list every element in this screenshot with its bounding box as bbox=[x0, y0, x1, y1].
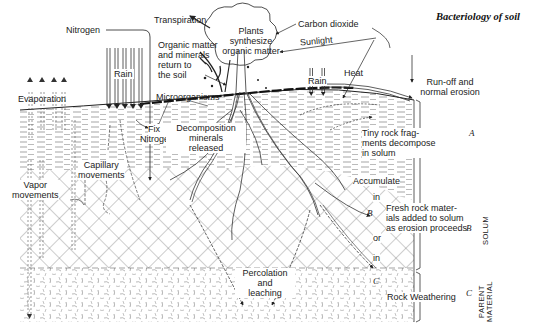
tiny-line-2: ments decompose bbox=[362, 138, 436, 148]
label-fresh-rock-materials: Fresh rock mater- ials added to solum as… bbox=[386, 203, 467, 233]
capillary-line-1: Capillary bbox=[78, 160, 125, 170]
plants-line-3: organic matter bbox=[218, 46, 284, 56]
parent-line-2: MATERIAL bbox=[486, 281, 494, 322]
organic-line-4: the soil bbox=[158, 70, 218, 80]
label-plants-synthesize: Plants synthesize organic matter bbox=[218, 26, 284, 56]
label-nitrogen-top: Nitrogen bbox=[66, 25, 100, 35]
fresh-line-1: Fresh rock mater- bbox=[386, 203, 467, 213]
horizon-c-inner: C bbox=[373, 276, 379, 286]
label-heat: Heat bbox=[344, 68, 363, 78]
soil-diagram: Bacteriology of soil Nitrogen Rain Evapo… bbox=[0, 0, 534, 326]
organic-line-3: return to bbox=[158, 60, 218, 70]
runoff-line-2: normal erosion bbox=[410, 87, 490, 97]
fresh-line-2: ials added to solum bbox=[386, 213, 467, 223]
label-decomposition: Decomposition minerals released bbox=[166, 123, 246, 153]
label-runoff: Run-off and normal erosion bbox=[410, 77, 490, 97]
label-transpiration: Transpiration bbox=[154, 15, 206, 25]
fresh-line-3: as erosion proceeds bbox=[386, 223, 467, 233]
vapor-line-2: movements bbox=[12, 190, 59, 200]
label-tiny-rock-fragments: Tiny rock frag- ments decompose in solum bbox=[362, 128, 436, 158]
decomp-line-3: released bbox=[166, 143, 246, 153]
plants-line-2: synthesize bbox=[218, 36, 284, 46]
percolation-line-1: Percolation bbox=[235, 268, 295, 278]
label-percolation-leaching: Percolation and leaching bbox=[235, 268, 295, 298]
label-evaporation: Evaporation bbox=[18, 94, 66, 104]
tiny-line-1: Tiny rock frag- bbox=[362, 128, 436, 138]
label-rain-right: Rain bbox=[308, 76, 327, 86]
label-microorganisms: Microorganisms bbox=[156, 92, 220, 102]
label-parent-material: PARENT MATERIAL bbox=[478, 281, 494, 322]
label-rock-weathering: Rock Weathering bbox=[387, 292, 456, 302]
label-accumulate: Accumulate bbox=[353, 176, 400, 186]
label-rain-left: Rain bbox=[113, 69, 134, 79]
decomp-line-1: Decomposition bbox=[166, 123, 246, 133]
horizon-b-edge: B bbox=[466, 223, 472, 233]
horizon-a-edge: A bbox=[469, 128, 475, 138]
label-in-2: in bbox=[373, 253, 380, 263]
percolation-line-2: and bbox=[235, 278, 295, 288]
figure-title: Bacteriology of soil bbox=[436, 11, 520, 22]
percolation-line-3: leaching bbox=[235, 288, 295, 298]
tiny-line-3: in solum bbox=[362, 148, 436, 158]
vapor-line-1: Vapor bbox=[12, 180, 59, 190]
runoff-line-1: Run-off and bbox=[410, 77, 490, 87]
label-capillary-movements: Capillary movements bbox=[78, 160, 125, 180]
label-or: or bbox=[373, 233, 381, 243]
plants-line-1: Plants bbox=[218, 26, 284, 36]
organic-line-2: and minerals bbox=[158, 50, 218, 60]
label-solum: SOLUM bbox=[482, 216, 490, 245]
horizon-c-edge: C bbox=[466, 288, 472, 298]
label-in-1: in bbox=[373, 192, 380, 202]
decomp-line-2: minerals bbox=[166, 133, 246, 143]
label-organic-matter-return: Organic matter and minerals return to th… bbox=[158, 40, 218, 80]
horizon-b-inner: B bbox=[367, 208, 373, 218]
capillary-line-2: movements bbox=[78, 170, 125, 180]
organic-line-1: Organic matter bbox=[158, 40, 218, 50]
label-carbon-dioxide: Carbon dioxide bbox=[298, 19, 359, 29]
label-vapor-movements: Vapor movements bbox=[12, 180, 59, 200]
